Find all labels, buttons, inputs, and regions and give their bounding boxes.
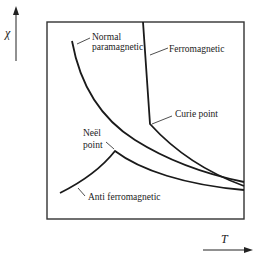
antiferromagnetic-curve: [60, 151, 244, 193]
curie-point-label: Curie point: [175, 109, 218, 119]
antiferromagnetic-label: Anti ferromagnetic: [88, 192, 161, 202]
normal-paramagnetic-curve: [72, 41, 244, 182]
neel-point-label-line1: Neël: [83, 128, 101, 138]
ferro-leader-line: [150, 48, 168, 55]
ferromagnetic-label: Ferromagnetic: [169, 44, 224, 54]
normal-paramagnetic-label-line2: paramagnetic: [92, 42, 143, 52]
y-axis-arrow: [13, 6, 19, 61]
normal-leader-line: [77, 38, 90, 44]
x-axis-label: T: [221, 232, 229, 246]
antiferro-leader-line: [78, 188, 85, 196]
curie-leader-line: [152, 116, 172, 124]
magnetic-susceptibility-diagram: χ T Normal paramagnetic Ferromagnetic Cu…: [0, 0, 256, 254]
normal-paramagnetic-label-line1: Normal: [92, 32, 121, 42]
x-axis-arrow: [203, 247, 253, 253]
y-axis-label: χ: [4, 26, 11, 40]
neel-leader-line: [106, 142, 114, 149]
neel-point-label-line2: point: [83, 140, 103, 150]
